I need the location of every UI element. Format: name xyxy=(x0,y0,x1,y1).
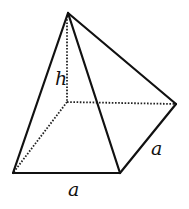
label-side-right: a xyxy=(151,137,162,159)
base-edge-right xyxy=(120,104,176,173)
label-height: h xyxy=(55,67,67,89)
pyramid-diagram: h a a xyxy=(0,0,189,209)
hidden-base-edge-left xyxy=(13,102,67,173)
lateral-edge-back-right xyxy=(68,13,176,104)
lateral-edge-front-right xyxy=(68,13,120,173)
hidden-base-edge-back xyxy=(67,102,176,104)
label-side-bottom: a xyxy=(68,178,79,200)
lateral-edge-front-left xyxy=(13,13,68,173)
